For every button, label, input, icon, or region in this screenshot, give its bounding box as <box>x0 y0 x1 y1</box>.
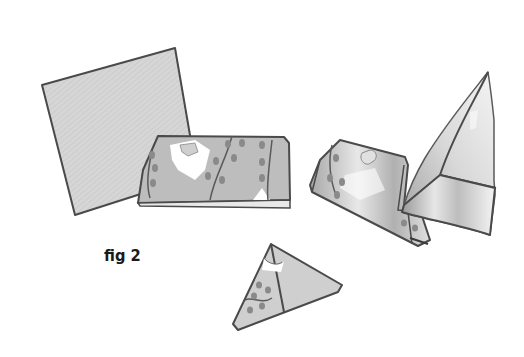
small-triangle-fold <box>233 244 342 330</box>
folded-patterned-band <box>138 136 290 208</box>
illustration-canvas: fig 2 <box>0 0 524 357</box>
napkin-folding-illustration <box>0 0 524 357</box>
standing-cone-fold <box>402 72 496 235</box>
figure-caption: fig 2 <box>104 246 141 265</box>
